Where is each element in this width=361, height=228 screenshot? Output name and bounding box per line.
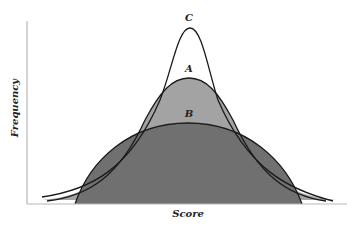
y-axis-label: Frequency <box>9 78 20 139</box>
curve-b-fill <box>75 123 302 204</box>
label-a: A <box>184 63 193 74</box>
label-b: B <box>184 108 193 119</box>
distribution-chart: C A B Score Frequency <box>0 0 361 228</box>
label-c: C <box>185 12 193 23</box>
x-axis-label: Score <box>172 208 204 219</box>
